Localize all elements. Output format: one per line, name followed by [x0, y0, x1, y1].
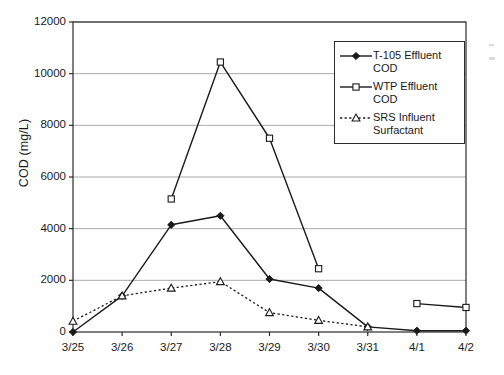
data-point-open-square	[266, 135, 272, 141]
data-point-open-triangle	[69, 317, 77, 324]
series-line	[171, 62, 318, 269]
data-point-filled-diamond	[413, 327, 420, 334]
scan-artifact	[489, 44, 494, 46]
chart-container: COD (mg/L) 020004000600080001000012000 3…	[0, 0, 504, 375]
x-tick-label: 3/30	[307, 342, 329, 354]
scan-artifact	[489, 57, 495, 60]
data-point-open-square	[414, 300, 420, 306]
x-tick-label: 4/1	[409, 342, 425, 354]
data-point-filled-diamond	[462, 327, 469, 334]
series-line	[73, 282, 368, 327]
x-tick-label: 3/25	[62, 342, 84, 354]
data-point-open-square	[168, 196, 174, 202]
legend-swatch-open-triangle-icon	[339, 111, 373, 125]
data-point-open-square	[217, 59, 223, 65]
x-tick-label: 3/31	[357, 342, 379, 354]
data-point-open-square	[316, 266, 322, 272]
x-tick-label: 3/27	[160, 342, 182, 354]
legend-label: SRS Influent Surfactant	[373, 111, 435, 136]
x-tick-label: 3/26	[111, 342, 133, 354]
legend-item-2: SRS Influent Surfactant	[339, 111, 460, 136]
legend-label: T-105 Effluent COD	[373, 49, 441, 74]
series-line	[417, 304, 466, 308]
data-point-open-triangle	[216, 278, 224, 285]
legend-swatch-open-square-icon	[339, 80, 373, 94]
chart-legend: T-105 Effluent CODWTP Effluent CODSRS In…	[334, 41, 465, 144]
x-tick-label: 3/28	[209, 342, 231, 354]
x-axis-tick-labels: 3/253/263/273/283/293/303/314/14/2	[0, 342, 504, 362]
x-tick-label: 4/2	[458, 342, 474, 354]
legend-item-1: WTP Effluent COD	[339, 80, 460, 105]
series-2	[69, 278, 372, 330]
x-tick-label: 3/29	[258, 342, 280, 354]
legend-label: WTP Effluent COD	[373, 80, 437, 105]
series-0	[69, 212, 469, 335]
legend-swatch-filled-diamond-icon	[339, 49, 373, 63]
data-point-open-triangle	[266, 309, 274, 316]
legend-item-0: T-105 Effluent COD	[339, 49, 460, 74]
data-point-open-square	[353, 84, 359, 90]
data-point-open-square	[463, 304, 469, 310]
data-point-filled-diamond	[352, 52, 359, 59]
